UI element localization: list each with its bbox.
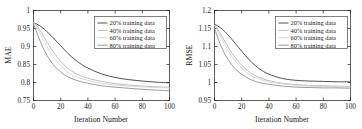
rmse-legend-label: 80% training data: [291, 42, 337, 49]
panel-rmse: 0.9511.051.11.151.2 020406080100 RMSE It…: [181, 0, 362, 129]
mae-x-ticklabel: 20: [57, 103, 65, 111]
mae-y-ticklabel: 0.85: [17, 61, 30, 69]
panel-mae: 0.750.80.850.90.951 020406080100 MAE Ite…: [0, 0, 181, 129]
rmse-x-ticklabel: 20: [238, 103, 246, 111]
rmse-legend: 20% training data40% training data60% tr…: [276, 17, 348, 49]
mae-y-ticklabel: 1: [26, 7, 30, 15]
rmse-y-ticklabel: 1.15: [198, 25, 211, 33]
rmse-y-axis-title: RMSE: [185, 44, 194, 65]
mae-y-axis-title: MAE: [4, 46, 13, 64]
mae-y-ticklabel: 0.8: [21, 79, 30, 87]
rmse-legend-label: 20% training data: [291, 19, 337, 26]
mae-y-ticklabels: 0.750.80.850.90.951: [17, 7, 30, 105]
rmse-y-ticklabel: 1.2: [202, 7, 211, 15]
mae-y-ticklabel: 0.9: [21, 43, 30, 51]
mae-x-ticklabels: 020406080100: [32, 103, 176, 111]
rmse-x-ticklabel: 60: [293, 103, 301, 111]
mae-plot: 0.750.80.850.90.951 020406080100 MAE Ite…: [0, 0, 181, 129]
mae-x-axis-title: Iteration Number: [74, 115, 128, 124]
mae-legend-label: 40% training data: [110, 27, 156, 34]
rmse-x-ticklabels: 020406080100: [213, 103, 357, 111]
mae-legend: 20% training data40% training data60% tr…: [95, 17, 167, 49]
mae-legend-label: 60% training data: [110, 34, 156, 41]
rmse-y-ticklabel: 1.05: [198, 61, 211, 69]
rmse-x-ticklabel: 40: [265, 103, 273, 111]
rmse-plot: 0.9511.051.11.151.2 020406080100 RMSE It…: [181, 0, 362, 129]
rmse-y-ticklabels: 0.9511.051.11.151.2: [198, 7, 211, 105]
rmse-legend-label: 40% training data: [291, 27, 337, 34]
mae-x-ticklabel: 80: [139, 103, 147, 111]
rmse-x-ticklabel: 80: [320, 103, 328, 111]
mae-legend-label: 20% training data: [110, 19, 156, 26]
mae-legend-label: 80% training data: [110, 42, 156, 49]
rmse-y-ticklabel: 0.95: [198, 97, 211, 105]
rmse-y-ticklabel: 1.1: [202, 43, 211, 51]
rmse-y-ticklabel: 1: [207, 79, 211, 87]
rmse-x-ticklabel: 0: [213, 103, 217, 111]
mae-x-ticklabel: 100: [164, 103, 175, 111]
mae-y-ticklabel: 0.95: [17, 25, 30, 33]
mae-y-ticklabel: 0.75: [17, 97, 30, 105]
mae-x-ticklabel: 40: [84, 103, 92, 111]
rmse-x-ticklabel: 100: [345, 103, 356, 111]
mae-x-ticklabel: 0: [32, 103, 36, 111]
rmse-legend-label: 60% training data: [291, 34, 337, 41]
mae-x-ticklabel: 60: [112, 103, 120, 111]
figure-container: 0.750.80.850.90.951 020406080100 MAE Ite…: [0, 0, 362, 129]
rmse-x-axis-title: Iteration Number: [255, 115, 309, 124]
